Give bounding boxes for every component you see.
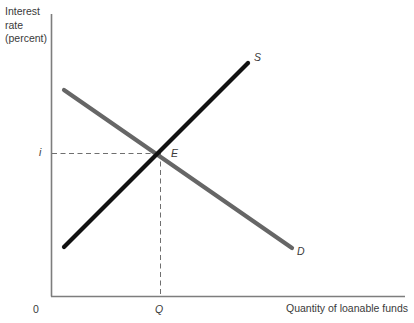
demand-curve [64, 90, 292, 248]
y-axis-title-line-2: rate [5, 19, 47, 33]
demand-curve-label: D [297, 245, 305, 257]
chart-canvas [0, 0, 414, 323]
y-axis-title: Interest rate (percent) [5, 5, 47, 46]
x-axis-title: Quantity of loanable funds [286, 302, 408, 314]
quantity-tick-label: Q [155, 303, 163, 315]
equilibrium-point-label: E [171, 147, 178, 159]
supply-curve-label: S [254, 51, 261, 63]
loanable-funds-chart: Interest rate (percent) i 0 Q E S D Quan… [0, 0, 414, 323]
y-axis-title-line-3: (percent) [5, 32, 47, 46]
origin-label: 0 [33, 303, 39, 315]
interest-rate-tick-label: i [39, 146, 41, 158]
supply-curve [64, 63, 248, 247]
y-axis-title-line-1: Interest [5, 5, 47, 19]
